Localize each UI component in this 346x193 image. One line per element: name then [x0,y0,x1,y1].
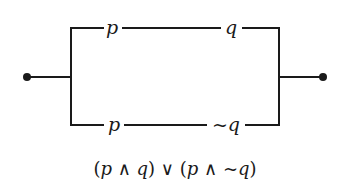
right-terminal-dot [319,73,327,81]
circuit-diagram: p q p ~q (p ∧ q) ∨ (p ∧ ~q) [0,0,346,193]
bottom-switch-not-q-label: ~q [212,113,240,135]
top-branch: p q [70,16,280,38]
bottom-switch-p-label: p [108,113,120,135]
bottom-branch: p ~q [70,113,280,135]
top-switch-p-label: p [106,16,118,38]
top-switch-q-label: q [225,16,237,38]
boolean-expression-caption: (p ∧ q) ∨ (p ∧ ~q) [93,158,256,179]
